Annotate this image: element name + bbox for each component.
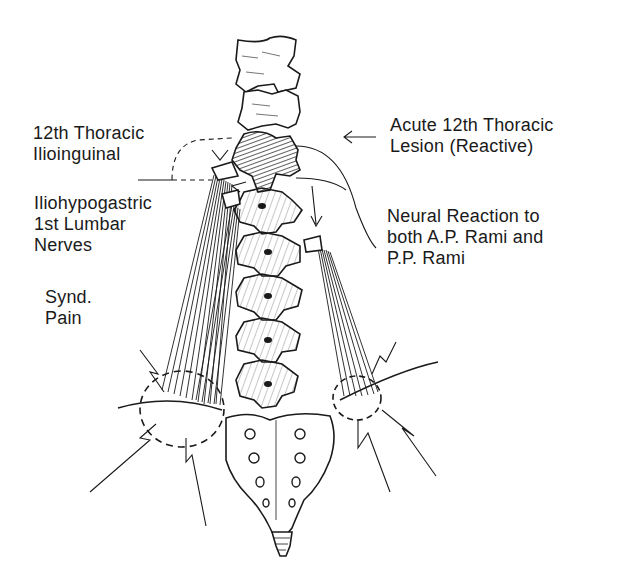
label-synd-pain: Synd. Pain <box>45 287 92 329</box>
label-line: Ilioinguinal <box>33 144 144 165</box>
vertebra-t11 <box>238 90 300 130</box>
label-acute-lesion: Acute 12th Thoracic Lesion (Reactive) <box>390 115 554 157</box>
spine-illustration <box>0 0 629 583</box>
left-arrow-1 <box>212 150 228 160</box>
left-pain-circle <box>140 371 224 447</box>
label-line: Iliohypogastric <box>34 193 152 214</box>
right-pain-circle <box>333 376 381 420</box>
label-line: Pain <box>45 308 92 329</box>
label-iliohypogastric-nerves: Iliohypogastric 1st Lumbar Nerves <box>34 193 152 256</box>
label-line: P.P. Rami <box>387 248 543 269</box>
label-line: 12th Thoracic <box>33 123 144 144</box>
spine <box>212 36 334 556</box>
label-line: Nerves <box>34 235 152 256</box>
label-line: 1st Lumbar <box>34 214 152 235</box>
lesion-arrow <box>344 131 376 143</box>
label-line: Synd. <box>45 287 92 308</box>
label-12th-thoracic-ilioinguinal: 12th Thoracic Ilioinguinal <box>33 123 144 165</box>
label-neural-reaction: Neural Reaction to both A.P. Rami and P.… <box>387 206 543 269</box>
label-line: Lesion (Reactive) <box>390 136 554 157</box>
label-line: Acute 12th Thoracic <box>390 115 554 136</box>
down-arrow <box>311 186 322 226</box>
label-line: Neural Reaction to <box>387 206 543 227</box>
left-skin-curve <box>118 401 222 410</box>
sacrum <box>226 414 334 540</box>
vertebra-t10 <box>236 36 300 92</box>
neural-reaction-curve <box>296 146 376 248</box>
label-line: both A.P. Rami and <box>387 227 543 248</box>
vertebra-l1 <box>234 188 302 234</box>
